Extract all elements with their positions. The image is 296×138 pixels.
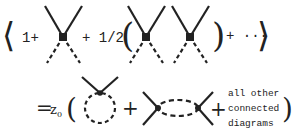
z-symbol: z — [50, 102, 57, 117]
plus-one: + — [122, 96, 139, 120]
open-paren-top: ( — [121, 15, 134, 55]
z-subscript: 0 — [57, 110, 62, 119]
term-one: 1+ — [22, 30, 39, 46]
open-angle-bracket: ⟨ — [2, 15, 15, 55]
close-paren-bottom: ) — [282, 92, 293, 125]
close-paren-top: ) — [212, 15, 225, 55]
single-vertex-diagram — [45, 6, 82, 63]
all-other-line1: all other — [228, 88, 279, 99]
plus-half: + 1/2 — [82, 30, 124, 46]
bubble-diagram — [143, 92, 213, 125]
close-angle-bracket: ⟩ — [257, 15, 270, 55]
feynman-diagram-equation: ⟨ 1+ + 1/2 ( ) + ··· ⟩ = z 0 ( + — [0, 0, 296, 138]
plus-two: + — [210, 97, 227, 121]
all-other-line3: diagrams — [228, 118, 274, 129]
open-paren-bottom: ( — [66, 92, 77, 125]
tadpole-diagram — [82, 77, 118, 123]
all-other-line2: connected — [228, 103, 279, 114]
two-vertex-diagram — [128, 6, 209, 63]
